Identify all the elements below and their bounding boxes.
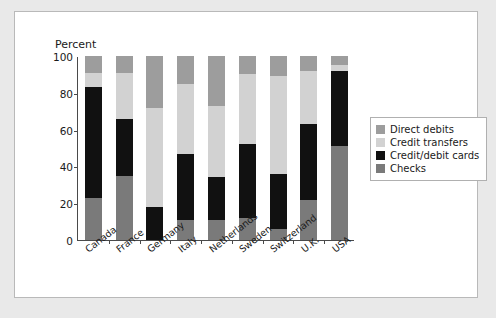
legend-item: Checks: [376, 162, 479, 175]
bar-italy: [177, 56, 194, 240]
y-axis-tick-label: 40: [60, 161, 73, 173]
bar-segment: [177, 56, 194, 84]
y-axis-tick-mark: [74, 94, 78, 95]
bar-segment: [300, 56, 317, 71]
legend-label: Credit transfers: [390, 136, 468, 149]
bar-france: [116, 56, 133, 240]
legend-label: Credit/debit cards: [390, 149, 479, 162]
legend-swatch-icon: [376, 151, 385, 160]
x-axis-tick-mark: [170, 240, 171, 244]
bar-segment: [331, 146, 348, 240]
bar-canada: [85, 56, 102, 240]
y-axis-tick-label: 60: [60, 125, 73, 137]
chart-legend: Direct debitsCredit transfersCredit/debi…: [370, 117, 487, 181]
x-axis-tick-mark: [263, 240, 264, 244]
bar-segment: [331, 65, 348, 71]
bar-segment: [85, 56, 102, 73]
bar-segment: [270, 174, 287, 229]
bar-segment: [177, 154, 194, 220]
legend-swatch-icon: [376, 125, 385, 134]
legend-item: Credit/debit cards: [376, 149, 479, 162]
bar-segment: [146, 108, 163, 207]
y-axis-tick-mark: [74, 131, 78, 132]
legend-item: Credit transfers: [376, 136, 479, 149]
y-axis-tick-label: 100: [53, 51, 73, 63]
x-axis-tick-mark: [201, 240, 202, 244]
bar-segment: [270, 76, 287, 174]
y-axis-tick-mark: [74, 204, 78, 205]
bar-segment: [239, 74, 256, 144]
bar-segment: [116, 56, 133, 73]
x-axis-tick-mark: [140, 240, 141, 244]
legend-item: Direct debits: [376, 123, 479, 136]
bar-switzerland: [270, 56, 287, 240]
bar-netherlands: [208, 56, 225, 240]
x-axis-tick-mark: [232, 240, 233, 244]
legend-swatch-icon: [376, 164, 385, 173]
y-axis-tick-label: 80: [60, 88, 73, 100]
bar-segment: [116, 176, 133, 240]
bar-segment: [208, 177, 225, 219]
y-axis-tick-label: 20: [60, 198, 73, 210]
bar-segment: [116, 119, 133, 176]
y-axis-tick-mark: [74, 167, 78, 168]
bar-segment: [239, 56, 256, 74]
bar-segment: [331, 71, 348, 146]
bar-segment: [208, 56, 225, 106]
y-axis-title: Percent: [55, 38, 96, 51]
bar-usa: [331, 56, 348, 240]
bar-segment: [300, 124, 317, 199]
legend-label: Direct debits: [390, 123, 454, 136]
bar-segment: [85, 87, 102, 197]
bar-segment: [146, 56, 163, 108]
bar-segment: [239, 144, 256, 218]
bar-segment: [85, 73, 102, 88]
bar-segment: [270, 56, 287, 76]
figure-panel: Percent 020406080100 Direct debitsCredit…: [14, 11, 478, 298]
bar-germany: [146, 56, 163, 240]
x-axis-tick-mark: [324, 240, 325, 244]
x-axis-tick-mark: [293, 240, 294, 244]
bar-segment: [300, 71, 317, 124]
bar-segment: [208, 106, 225, 178]
bar-segment: [331, 56, 348, 65]
y-axis-tick-label: 0: [66, 235, 73, 247]
legend-label: Checks: [390, 162, 426, 175]
legend-swatch-icon: [376, 138, 385, 147]
bar-segment: [116, 73, 133, 119]
x-axis-tick-mark: [109, 240, 110, 244]
bar-segment: [177, 84, 194, 154]
y-axis-tick-labels: 020406080100: [45, 57, 73, 241]
